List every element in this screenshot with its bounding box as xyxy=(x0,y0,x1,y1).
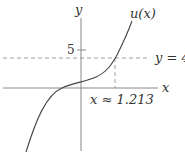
x-axis-label: x xyxy=(162,80,170,95)
curve-u xyxy=(26,21,132,152)
function-diagram: y x u(x) 5 y = 4 x ≈ 1.213 xyxy=(0,0,185,159)
intersection-label: x ≈ 1.213 xyxy=(90,92,154,107)
horizontal-line-label: y = 4 xyxy=(154,50,185,65)
curve-label: u(x) xyxy=(130,6,156,21)
y-tick-label: 5 xyxy=(67,43,75,57)
y-axis-label: y xyxy=(74,2,83,17)
